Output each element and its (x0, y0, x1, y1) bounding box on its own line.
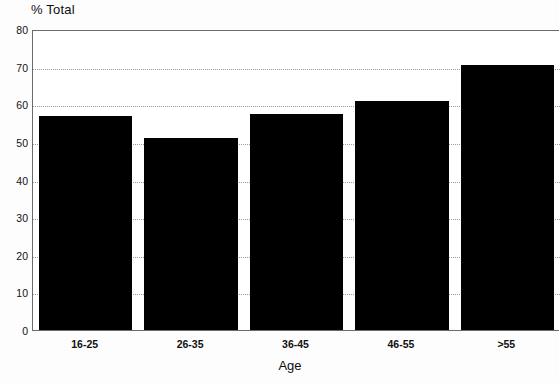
x-axis-tick-label: 36-45 (282, 338, 309, 350)
y-axis-tick-label: 20 (2, 250, 28, 262)
chart-title: % Total (31, 2, 75, 17)
x-axis-tick-label: >55 (497, 338, 515, 350)
y-axis-tick-label: 40 (2, 175, 28, 187)
y-axis: 01020304050607080 (0, 30, 28, 331)
bar (355, 101, 448, 331)
x-axis-tick-label: 26-35 (177, 338, 204, 350)
bar (461, 65, 554, 330)
x-axis-title: Age (278, 358, 301, 373)
y-axis-tick-label: 70 (2, 62, 28, 74)
y-axis-tick-label: 60 (2, 99, 28, 111)
y-axis-tick-label: 10 (2, 287, 28, 299)
plot-area (32, 30, 559, 331)
y-axis-tick-label: 30 (2, 212, 28, 224)
bar (144, 138, 237, 330)
y-axis-tick-label: 80 (2, 24, 28, 36)
bar (39, 116, 132, 330)
bar (250, 114, 343, 330)
y-axis-tick-label: 0 (2, 325, 28, 337)
x-axis-tick-label: 46-55 (387, 338, 414, 350)
x-axis-tick-label: 16-25 (71, 338, 98, 350)
y-axis-tick-label: 50 (2, 137, 28, 149)
